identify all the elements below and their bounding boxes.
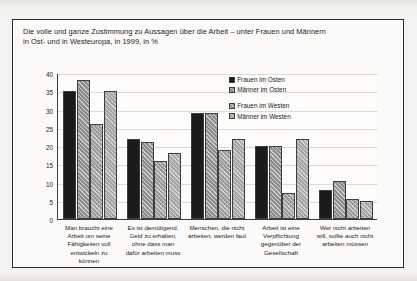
bar xyxy=(104,91,117,219)
category-label-line: Geld zu erhalten, xyxy=(117,232,189,240)
bar xyxy=(282,193,295,219)
plot-area: 0510152025303540 Man braucht eineArbeit … xyxy=(13,64,405,269)
category-label-line: Fähigkeiten voll xyxy=(53,240,125,248)
bar xyxy=(154,161,167,219)
category-label-line: Man braucht eine xyxy=(53,224,125,232)
y-tick-label: 5 xyxy=(39,198,53,205)
legend-swatch-icon xyxy=(229,113,235,119)
legend-label: Männer im Osten xyxy=(237,86,286,93)
bar xyxy=(269,146,282,219)
category-label-line: gegenüber der xyxy=(245,240,317,248)
bar xyxy=(63,91,76,219)
chart-title-line-1: Die volle und ganze Zustimmung zu Aussag… xyxy=(23,27,391,37)
y-tick-label: 0 xyxy=(39,217,53,224)
bar xyxy=(218,150,231,219)
bar xyxy=(90,124,103,219)
category-label-line: Verpflichtung xyxy=(245,232,317,240)
bar xyxy=(141,142,154,219)
chart-panel: Die volle und ganze Zustimmung zu Aussag… xyxy=(12,19,404,268)
category-label-line: entwickeln zu xyxy=(53,249,125,257)
category-label-line: Es ist demütigend, xyxy=(117,224,189,232)
bar xyxy=(333,181,346,219)
category-label-line: Arbeit um seine xyxy=(53,232,125,240)
legend-item[interactable]: Männer im Westen xyxy=(229,111,335,121)
category-label: Menschen, die nichtarbeiten, werden faul xyxy=(181,224,253,240)
category-label: Man braucht eineArbeit um seineFähigkeit… xyxy=(53,224,125,265)
scan-artifact-top xyxy=(0,0,417,9)
bar xyxy=(168,153,181,219)
scan-artifact-bottom xyxy=(0,273,417,281)
y-tick-label: 40 xyxy=(39,71,53,78)
bar xyxy=(319,190,332,219)
category-label-line: können xyxy=(53,257,125,265)
category-label: Arbeit ist eineVerpflichtunggegenüber de… xyxy=(245,224,317,257)
legend-label: Frauen im Osten xyxy=(237,76,285,83)
y-tick-label: 35 xyxy=(39,89,53,96)
y-tick-label: 30 xyxy=(39,107,53,114)
category-label-line: dafür arbeiten muss xyxy=(117,249,189,257)
category-label-line: Gesellschaft xyxy=(245,249,317,257)
category-label-line: Arbeit ist eine xyxy=(245,224,317,232)
category-label-line: arbeiten müssen xyxy=(309,240,381,248)
category-label-line: arbeiten, werden faul xyxy=(181,232,253,240)
y-tick-label: 20 xyxy=(39,144,53,151)
bar xyxy=(296,139,309,219)
y-tick-label: 10 xyxy=(39,180,53,187)
legend-item[interactable]: Frauen im Westen xyxy=(229,101,335,111)
chart-legend: Frauen im OstenMänner im OstenFrauen im … xyxy=(229,75,335,122)
bar xyxy=(360,201,373,219)
category-label-line: Wer nicht arbeiten xyxy=(309,224,381,232)
chart-title-line-2: in Ost- und in Westeuropa, in 1999, in % xyxy=(23,37,391,47)
legend-swatch-icon xyxy=(229,87,235,93)
legend-item[interactable]: Männer im Osten xyxy=(229,85,335,95)
bar xyxy=(255,146,268,219)
category-label: Wer nicht arbeitenwill, sollte auch nich… xyxy=(309,224,381,249)
legend-item[interactable]: Frauen im Osten xyxy=(229,75,335,85)
y-tick-label: 25 xyxy=(39,125,53,132)
x-axis-category-labels: Man braucht eineArbeit um seineFähigkeit… xyxy=(57,224,377,270)
legend-swatch-icon xyxy=(229,103,235,109)
bar xyxy=(191,113,204,219)
bar xyxy=(346,199,359,219)
category-label-line: ohne dass man xyxy=(117,240,189,248)
chart-title: Die volle und ganze Zustimmung zu Aussag… xyxy=(23,27,391,47)
legend-label: Männer im Westen xyxy=(237,113,291,120)
bar xyxy=(232,139,245,219)
bar xyxy=(205,113,218,219)
category-label-line: will, sollte auch nicht xyxy=(309,232,381,240)
category-label-line: Menschen, die nicht xyxy=(181,224,253,232)
category-label: Es ist demütigend,Geld zu erhalten,ohne … xyxy=(117,224,189,257)
bar xyxy=(127,139,140,219)
legend-swatch-icon xyxy=(229,77,235,83)
y-tick-label: 15 xyxy=(39,162,53,169)
bar xyxy=(77,80,90,219)
y-axis-tick-labels: 0510152025303540 xyxy=(37,74,53,220)
scanned-page-background: Die volle und ganze Zustimmung zu Aussag… xyxy=(0,0,417,281)
legend-label: Frauen im Westen xyxy=(237,102,289,109)
